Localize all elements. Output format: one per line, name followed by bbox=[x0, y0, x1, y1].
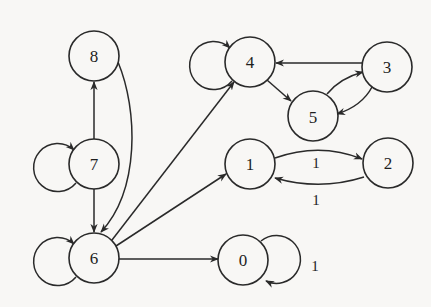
edge-6-1 bbox=[116, 174, 226, 246]
node-6: 6 bbox=[69, 233, 119, 283]
node-3: 3 bbox=[362, 42, 412, 92]
node-7: 7 bbox=[69, 139, 119, 189]
edge-label-2-1: 1 bbox=[312, 192, 320, 208]
graph-svg: 8 7 6 4 3 5 1 2 bbox=[0, 0, 431, 307]
edge-5-3 bbox=[327, 72, 363, 94]
node-0: 0 bbox=[218, 235, 268, 285]
node-5: 5 bbox=[288, 91, 338, 141]
svg-text:0: 0 bbox=[239, 251, 248, 270]
graph-diagram: 8 7 6 4 3 5 1 2 bbox=[0, 0, 431, 307]
node-8: 8 bbox=[69, 31, 119, 81]
node-4: 4 bbox=[225, 37, 275, 87]
svg-text:5: 5 bbox=[309, 108, 318, 127]
svg-text:1: 1 bbox=[246, 155, 255, 174]
node-2: 2 bbox=[363, 138, 413, 188]
svg-text:2: 2 bbox=[384, 154, 393, 173]
svg-text:7: 7 bbox=[90, 155, 99, 174]
edge-3-5 bbox=[337, 87, 372, 114]
svg-text:8: 8 bbox=[90, 47, 99, 66]
svg-text:4: 4 bbox=[246, 53, 255, 72]
edge-2-1 bbox=[275, 177, 364, 184]
svg-text:3: 3 bbox=[383, 58, 392, 77]
edge-label-1-2: 1 bbox=[312, 155, 320, 171]
edge-4-5 bbox=[267, 80, 291, 101]
edge-label-0-0: 1 bbox=[311, 258, 319, 274]
svg-text:6: 6 bbox=[90, 249, 99, 268]
node-1: 1 bbox=[225, 139, 275, 189]
